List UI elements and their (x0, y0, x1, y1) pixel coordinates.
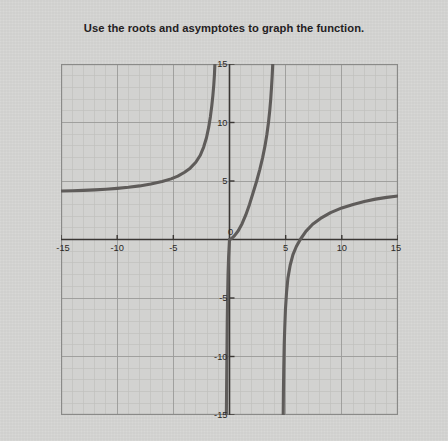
y-tick-label: -15 (208, 410, 228, 420)
page-title: Use the roots and asymptotes to graph th… (0, 22, 448, 34)
y-tick-label: 15 (208, 59, 228, 69)
origin-label: 0 (228, 227, 233, 237)
x-tick-label: 15 (391, 243, 401, 253)
graph-plot-area: -15-10-505101515105-5-10-15 (61, 64, 398, 415)
y-tick-label: -10 (208, 352, 228, 362)
x-tick-label: -10 (110, 243, 123, 253)
worksheet-page: Use the roots and asymptotes to graph th… (0, 0, 448, 441)
x-tick-label: 5 (283, 243, 288, 253)
y-tick-label: 10 (208, 118, 228, 128)
x-tick-label: -5 (169, 243, 177, 253)
y-tick-label: -5 (208, 293, 228, 303)
x-tick-label: 10 (337, 243, 347, 253)
y-tick-label: 5 (208, 176, 228, 186)
x-tick-label: -15 (56, 243, 69, 253)
graph-svg (61, 64, 398, 415)
